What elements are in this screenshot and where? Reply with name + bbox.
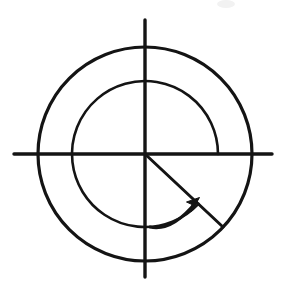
scan-smudge: [217, 0, 235, 8]
swept-angle-arc: [150, 202, 197, 228]
figure-canvas: Concentric circles with axes and negativ…: [0, 0, 284, 283]
angle-diagram-svg: [0, 0, 284, 283]
